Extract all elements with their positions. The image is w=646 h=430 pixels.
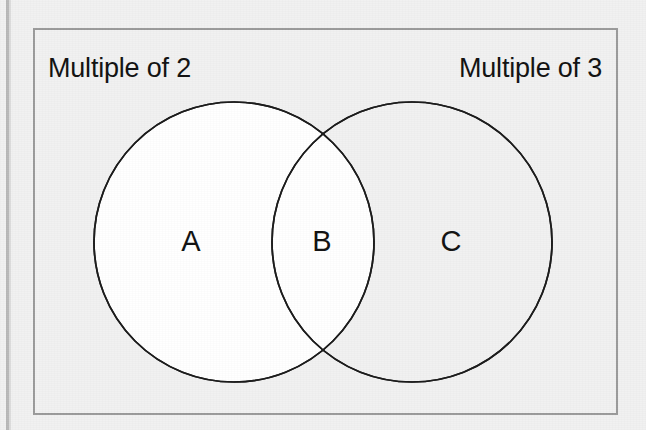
venn-diagram-canvas: Multiple of 2 Multiple of 3 A B C bbox=[0, 0, 646, 430]
page-edge-rule-shadow bbox=[9, 0, 11, 430]
set-label-left: Multiple of 2 bbox=[48, 55, 191, 82]
set-label-right: Multiple of 3 bbox=[459, 55, 602, 82]
region-label-a: A bbox=[181, 227, 200, 256]
region-label-c: C bbox=[441, 227, 462, 256]
diagram-frame: Multiple of 2 Multiple of 3 bbox=[33, 28, 618, 415]
region-label-b: B bbox=[312, 227, 331, 256]
